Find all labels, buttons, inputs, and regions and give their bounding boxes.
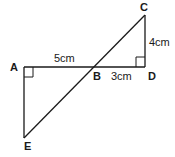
label-point-E: E [24, 140, 31, 152]
label-length-CD: 4cm [149, 36, 170, 48]
label-length-BD: 3cm [111, 70, 132, 82]
right-angle-marker-A [24, 67, 33, 77]
label-length-AB: 5cm [54, 52, 75, 64]
right-angle-marker-D [136, 57, 145, 67]
label-point-A: A [10, 61, 18, 73]
label-point-C: C [140, 1, 148, 13]
label-point-B: B [93, 70, 101, 82]
geometry-diagram: A B C D E 5cm 3cm 4cm [0, 0, 175, 157]
label-point-D: D [148, 70, 156, 82]
